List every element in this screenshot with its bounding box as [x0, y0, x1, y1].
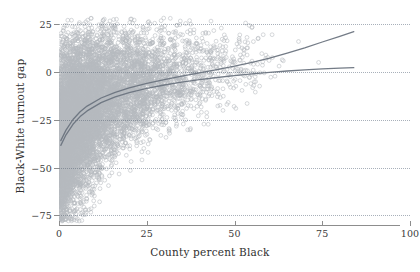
x-tick-50: [235, 221, 236, 226]
y-tick-label-25: 25: [40, 18, 53, 29]
y-tick-label--75: −75: [31, 210, 52, 221]
data-points-group: [59, 16, 320, 223]
y-tick-25: [54, 24, 59, 25]
x-tick-25: [147, 221, 148, 226]
y-tick--50: [54, 168, 59, 169]
y-tick-label-0: 0: [46, 66, 52, 77]
y-tick--25: [54, 120, 59, 121]
x-tick-75: [322, 221, 323, 226]
scatter-plot-figure: 0255075100 250−25−50−75 County percent B…: [0, 0, 420, 272]
y-tick-0: [54, 72, 59, 73]
x-tick-label-100: 100: [401, 228, 420, 239]
x-tick-100: [410, 221, 411, 226]
x-tick-0: [59, 221, 60, 226]
plot-area: [59, 14, 410, 225]
x-tick-label-50: 50: [228, 228, 241, 239]
x-tick-label-75: 75: [316, 228, 329, 239]
y-axis-title: Black-White turnout gap: [14, 46, 26, 206]
y-tick-label--25: −25: [31, 114, 52, 125]
x-tick-label-25: 25: [141, 228, 154, 239]
x-axis-line: [59, 225, 400, 226]
x-axis-title: County percent Black: [0, 246, 420, 258]
scatter-canvas: [59, 14, 410, 225]
y-tick--75: [54, 215, 59, 216]
x-tick-label-0: 0: [56, 228, 62, 239]
y-tick-label--50: −50: [31, 162, 52, 173]
